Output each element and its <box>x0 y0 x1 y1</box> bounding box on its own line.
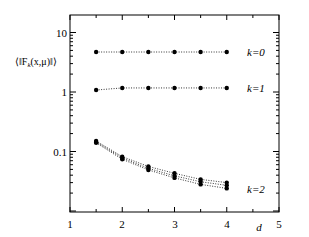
y-tick-1: 1 <box>62 86 68 98</box>
x-axis-label: d <box>256 221 262 233</box>
data-point <box>146 86 150 90</box>
series-line <box>96 88 227 90</box>
data-point <box>94 50 98 54</box>
data-point <box>94 88 98 92</box>
label-k1: k=1 <box>247 82 265 94</box>
data-point <box>94 141 98 145</box>
series-line <box>96 142 227 185</box>
data-point <box>198 50 202 54</box>
y-tick-0.1: 0.1 <box>53 146 67 158</box>
data-point <box>172 50 176 54</box>
data-point <box>198 182 202 186</box>
data-point <box>225 186 229 190</box>
y-axis-label: ⟨‖Fk(x,μ)‖⟩ <box>15 56 57 69</box>
data-point <box>146 50 150 54</box>
x-tick-1: 1 <box>67 218 73 230</box>
chart: 1 2 3 4 5 d 10 1 0.1 ⟨‖Fk(x,μ)‖⟩ k=0 k=1… <box>0 0 309 237</box>
data-point <box>225 86 229 90</box>
series-line <box>96 141 227 183</box>
label-k2: k=2 <box>247 183 265 195</box>
x-tick-5: 5 <box>276 218 282 230</box>
data-point <box>198 86 202 90</box>
label-k0: k=0 <box>247 46 265 58</box>
data-point <box>225 50 229 54</box>
data-point <box>120 86 124 90</box>
x-tick-3: 3 <box>172 218 178 230</box>
series-line <box>96 143 227 189</box>
data-point <box>172 86 176 90</box>
y-tick-10: 10 <box>56 27 68 39</box>
x-tick-4: 4 <box>224 218 230 230</box>
data-point <box>120 50 124 54</box>
data-point <box>120 157 124 161</box>
data-series <box>94 50 229 191</box>
x-tick-2: 2 <box>119 218 125 230</box>
data-point <box>146 168 150 172</box>
data-point <box>172 176 176 180</box>
